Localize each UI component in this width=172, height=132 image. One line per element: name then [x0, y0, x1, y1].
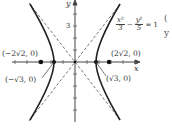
- origin-point: [74, 61, 77, 64]
- equation-label: x² 3 − y² 5 = 1: [116, 17, 158, 32]
- focus-left-label: (−2√2, 0): [2, 50, 38, 58]
- vertex-left-label: (−√3, 0): [5, 76, 36, 84]
- focus-left-point: [39, 60, 43, 64]
- y-fraction: y² 5: [135, 17, 144, 32]
- y-axis-label: y: [66, 0, 71, 8]
- focus-right-point: [107, 60, 111, 64]
- vertex-right-label: (√3, 0): [106, 75, 131, 83]
- x-fraction: x² 3: [116, 17, 125, 32]
- edge-fragment-y: y: [164, 28, 169, 38]
- y-tick-label-3: 3: [66, 23, 70, 30]
- y-axis-arrow: [73, 0, 77, 5]
- edge-fragment-paren: (: [164, 13, 168, 23]
- focus-right-label: (2√2, 0): [111, 50, 141, 58]
- x-axis-label: x: [134, 65, 139, 73]
